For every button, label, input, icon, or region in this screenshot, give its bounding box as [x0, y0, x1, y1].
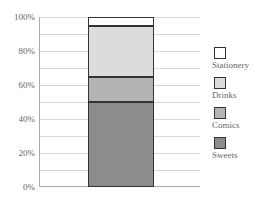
bar-segment-stationery: [88, 17, 154, 26]
bar-segment-comics: [88, 77, 154, 103]
legend-label-comics: Comics: [212, 120, 266, 130]
legend-label-sweets: Sweets: [212, 150, 266, 160]
y-axis: [39, 17, 40, 187]
legend-item-stationery: Stationery: [212, 47, 266, 77]
legend-item-sweets: Sweets: [212, 137, 266, 167]
legend-item-drinks: Drinks: [212, 77, 266, 107]
plot-area: 0% 20% 40% 60% 80% 100%: [39, 17, 200, 187]
legend-swatch-sweets: [214, 137, 226, 149]
stacked-bar: [88, 17, 154, 187]
y-tick-100: 100%: [5, 12, 35, 22]
bar-segment-drinks: [88, 26, 154, 77]
y-tick-40: 40%: [5, 114, 35, 124]
y-tick-60: 60%: [5, 80, 35, 90]
legend-label-drinks: Drinks: [212, 90, 266, 100]
legend-swatch-drinks: [214, 77, 226, 89]
y-tick-0: 0%: [5, 182, 35, 192]
legend-swatch-comics: [214, 107, 226, 119]
legend-swatch-stationery: [214, 47, 226, 59]
legend: Stationery Drinks Comics Sweets: [212, 47, 266, 167]
bar-segment-sweets: [88, 102, 154, 187]
legend-item-comics: Comics: [212, 107, 266, 137]
y-tick-20: 20%: [5, 148, 35, 158]
legend-label-stationery: Stationery: [212, 60, 266, 70]
y-tick-80: 80%: [5, 46, 35, 56]
